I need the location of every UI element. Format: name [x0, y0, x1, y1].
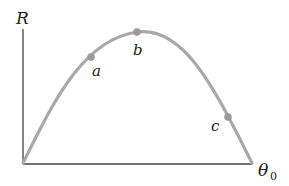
- point-a: [87, 53, 95, 61]
- x-axis-label-subscript: 0: [270, 170, 277, 183]
- y-axis-label: R: [15, 8, 29, 28]
- range-vs-angle-diagram: R a b c θ 0: [0, 0, 289, 186]
- point-c: [224, 113, 232, 121]
- point-a-label: a: [92, 62, 101, 80]
- point-b: [133, 28, 141, 36]
- point-c-label: c: [211, 117, 220, 135]
- point-b-label: b: [133, 41, 143, 59]
- x-axis-label: θ: [258, 160, 268, 180]
